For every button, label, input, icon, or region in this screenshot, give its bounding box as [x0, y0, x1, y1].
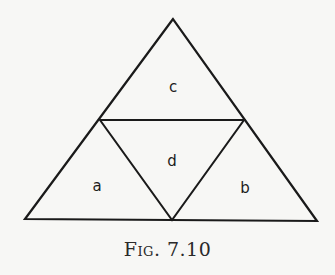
- region-label-a: a: [92, 179, 101, 194]
- region-label-b: b: [240, 181, 250, 196]
- subdivided-triangle-diagram: [0, 0, 335, 275]
- region-label-d: d: [167, 154, 177, 169]
- inner-medial-triangle: [100, 120, 244, 220]
- figure-caption: Fig. 7.10: [0, 238, 335, 260]
- region-label-c: c: [169, 80, 177, 95]
- figure: c d a b Fig. 7.10: [0, 0, 335, 275]
